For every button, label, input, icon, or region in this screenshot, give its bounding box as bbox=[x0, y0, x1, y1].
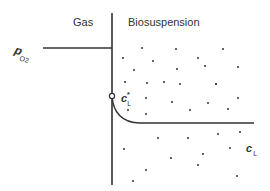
cell-dot bbox=[122, 57, 124, 59]
star-superscript: * bbox=[127, 91, 130, 98]
cell-dot bbox=[170, 157, 172, 159]
cell-dot bbox=[145, 97, 147, 99]
cell-dot bbox=[145, 113, 147, 115]
interface-concentration-symbol: cL* bbox=[121, 88, 134, 106]
suspended-cells bbox=[122, 47, 241, 182]
cell-dot bbox=[236, 175, 238, 177]
cell-dot bbox=[127, 109, 129, 111]
cell-dot bbox=[197, 57, 199, 59]
cell-dot bbox=[171, 101, 173, 103]
cell-dot bbox=[237, 66, 239, 68]
cell-dot bbox=[157, 137, 159, 139]
cell-dot bbox=[152, 60, 154, 62]
cell-dot bbox=[227, 108, 229, 110]
cell-dot bbox=[187, 137, 189, 139]
cell-dot bbox=[202, 153, 204, 155]
cell-dot bbox=[133, 69, 135, 71]
cell-dot bbox=[239, 131, 241, 133]
cell-dot bbox=[217, 133, 219, 135]
c-symbol: c bbox=[246, 142, 252, 154]
cell-dot bbox=[145, 169, 147, 171]
l-subscript: L bbox=[127, 100, 131, 107]
gas-liquid-interface-diagram bbox=[0, 0, 270, 191]
cell-dot bbox=[146, 82, 148, 84]
cell-dot bbox=[179, 83, 181, 85]
cell-dot bbox=[207, 102, 209, 104]
cell-dot bbox=[123, 148, 125, 150]
biosuspension-region-label: Biosuspension bbox=[128, 16, 200, 28]
l-subscript: L bbox=[253, 150, 257, 157]
cell-dot bbox=[204, 65, 206, 67]
cell-dot bbox=[175, 48, 177, 50]
cell-dot bbox=[197, 164, 199, 166]
cell-dot bbox=[189, 109, 191, 111]
cell-dot bbox=[229, 147, 231, 149]
cell-dot bbox=[237, 97, 239, 99]
gas-region-label: Gas bbox=[73, 16, 93, 28]
cell-dot bbox=[215, 83, 217, 85]
cell-dot bbox=[222, 48, 224, 50]
cell-dot bbox=[132, 180, 134, 182]
cell-dot bbox=[176, 68, 178, 70]
interface-point-marker bbox=[109, 93, 114, 98]
cell-dot bbox=[141, 47, 143, 49]
cell-dot bbox=[124, 81, 126, 83]
cell-dot bbox=[163, 81, 165, 83]
bulk-concentration-symbol: cL bbox=[246, 138, 256, 156]
